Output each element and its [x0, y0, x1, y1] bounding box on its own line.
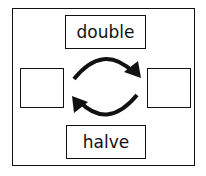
cycle-arrows-icon: [0, 0, 206, 176]
top-arrow: [74, 59, 133, 79]
top-arrowhead-icon: [124, 61, 141, 78]
bottom-arrow: [80, 95, 137, 114]
